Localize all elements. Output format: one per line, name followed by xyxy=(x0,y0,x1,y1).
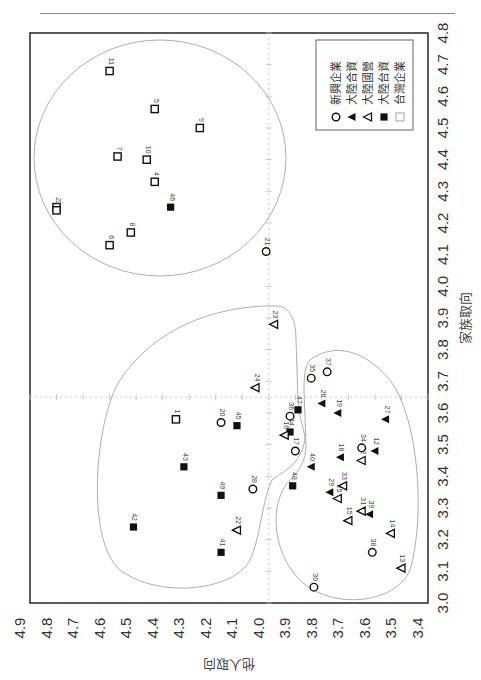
svg-text:31: 31 xyxy=(360,497,367,505)
data-point: 11 xyxy=(106,58,115,75)
svg-text:大陸台資: 大陸台資 xyxy=(377,61,391,105)
svg-text:3.7: 3.7 xyxy=(329,618,346,639)
svg-text:21: 21 xyxy=(264,238,271,246)
svg-text:4.4: 4.4 xyxy=(434,149,451,170)
data-point: 49 xyxy=(217,482,226,499)
svg-text:35: 35 xyxy=(309,364,316,372)
svg-text:49: 49 xyxy=(219,482,226,490)
svg-text:4.1: 4.1 xyxy=(223,618,240,639)
svg-text:16: 16 xyxy=(283,421,290,429)
data-point: 30 xyxy=(310,573,319,591)
svg-text:4.7: 4.7 xyxy=(64,618,81,639)
svg-text:1: 1 xyxy=(174,409,181,413)
svg-text:42: 42 xyxy=(131,513,138,521)
svg-text:4.6: 4.6 xyxy=(91,618,108,639)
svg-text:4.2: 4.2 xyxy=(434,213,451,234)
svg-text:3.6: 3.6 xyxy=(434,403,451,424)
svg-text:3.4: 3.4 xyxy=(434,466,451,487)
data-point: 28 xyxy=(249,475,258,493)
svg-text:10: 10 xyxy=(145,146,152,154)
data-point: 31 xyxy=(357,497,367,515)
svg-text:47: 47 xyxy=(296,396,303,404)
data-point: 9 xyxy=(196,118,205,132)
svg-text:4.6: 4.6 xyxy=(434,86,451,107)
svg-text:4.9: 4.9 xyxy=(11,618,28,639)
svg-text:3.8: 3.8 xyxy=(303,618,320,639)
svg-text:4: 4 xyxy=(153,172,160,176)
svg-text:3: 3 xyxy=(55,200,62,204)
svg-text:12: 12 xyxy=(373,437,380,445)
svg-text:19: 19 xyxy=(336,399,343,407)
data-point: 17 xyxy=(292,437,301,455)
svg-text:3.6: 3.6 xyxy=(356,618,373,639)
svg-text:43: 43 xyxy=(182,453,189,461)
data-point: 12 xyxy=(370,437,380,455)
svg-text:4.4: 4.4 xyxy=(144,618,161,639)
y-axis-title: 他人取向 xyxy=(203,657,255,672)
data-point: 7 xyxy=(114,147,123,161)
svg-text:6: 6 xyxy=(108,235,115,239)
svg-text:4.2: 4.2 xyxy=(197,618,214,639)
svg-text:11: 11 xyxy=(108,58,115,65)
svg-text:18: 18 xyxy=(338,444,345,452)
data-point: 42 xyxy=(130,513,139,530)
svg-text:3.5: 3.5 xyxy=(382,618,399,639)
data-point: 13 xyxy=(397,554,407,572)
svg-text:4.7: 4.7 xyxy=(434,54,451,75)
svg-text:大陸合資: 大陸合資 xyxy=(345,61,359,105)
svg-text:7: 7 xyxy=(116,147,123,151)
svg-text:46: 46 xyxy=(169,193,176,201)
data-point: 36 xyxy=(286,402,295,420)
data-point: 19 xyxy=(333,399,343,417)
x-axis-title: 家族取向 xyxy=(458,292,473,344)
svg-text:23: 23 xyxy=(272,311,279,319)
svg-text:48: 48 xyxy=(291,472,298,480)
svg-text:41: 41 xyxy=(219,539,226,547)
svg-text:30: 30 xyxy=(312,573,319,581)
svg-text:36: 36 xyxy=(288,402,295,410)
svg-text:4.1: 4.1 xyxy=(434,244,451,265)
svg-text:3.8: 3.8 xyxy=(434,339,451,360)
svg-text:34: 34 xyxy=(360,434,367,442)
svg-text:4.8: 4.8 xyxy=(38,618,55,639)
data-point: 10 xyxy=(143,146,152,163)
svg-text:3.9: 3.9 xyxy=(434,308,451,329)
data-point: 41 xyxy=(217,539,226,556)
svg-text:33: 33 xyxy=(341,472,348,480)
cluster-outline-upper xyxy=(34,40,286,276)
svg-text:大陸國營: 大陸國營 xyxy=(361,61,375,105)
svg-text:3.9: 3.9 xyxy=(276,618,293,639)
data-point: 24 xyxy=(251,374,260,392)
svg-text:22: 22 xyxy=(235,516,242,524)
data-point: 34 xyxy=(358,434,367,452)
svg-text:20: 20 xyxy=(219,409,226,417)
svg-text:8: 8 xyxy=(129,223,136,227)
svg-text:14: 14 xyxy=(389,520,396,528)
svg-text:4.5: 4.5 xyxy=(434,118,451,139)
data-point: 45 xyxy=(233,412,242,429)
svg-text:28: 28 xyxy=(251,475,258,483)
data-point: 27 xyxy=(381,406,391,424)
svg-text:3.4: 3.4 xyxy=(409,618,426,639)
svg-text:4.8: 4.8 xyxy=(434,23,451,44)
data-point: 1 xyxy=(172,409,181,423)
svg-text:新興企業: 新興企業 xyxy=(329,61,343,105)
svg-text:37: 37 xyxy=(325,358,332,366)
svg-text:4.5: 4.5 xyxy=(117,618,134,639)
svg-text:4.3: 4.3 xyxy=(170,618,187,639)
svg-text:台灣企業: 台灣企業 xyxy=(393,61,407,105)
data-point: 14 xyxy=(386,520,396,538)
data-point: 38 xyxy=(368,539,377,557)
data-point: 22 xyxy=(232,516,242,534)
svg-text:3.0: 3.0 xyxy=(434,593,451,614)
y-axis-ticks: 4.94.84.74.64.54.44.34.24.14.03.93.83.73… xyxy=(11,618,426,639)
svg-text:4.0: 4.0 xyxy=(434,276,451,297)
svg-text:3.7: 3.7 xyxy=(434,371,451,392)
data-point: 3 xyxy=(53,200,62,214)
svg-text:40: 40 xyxy=(309,453,316,461)
x-axis-ticks: 3.03.13.23.33.43.53.63.73.83.94.04.14.24… xyxy=(434,23,451,614)
svg-text:3.5: 3.5 xyxy=(434,434,451,455)
data-point: 18 xyxy=(336,444,346,462)
data-point: 20 xyxy=(217,409,226,427)
data-point: 29 xyxy=(325,478,335,496)
